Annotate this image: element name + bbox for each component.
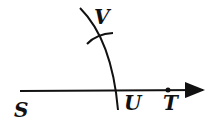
- label-s: S: [14, 98, 28, 122]
- construction-diagram: V S U T: [0, 0, 209, 138]
- label-v: V: [94, 5, 112, 29]
- label-u: U: [124, 91, 143, 115]
- label-t: T: [163, 91, 180, 115]
